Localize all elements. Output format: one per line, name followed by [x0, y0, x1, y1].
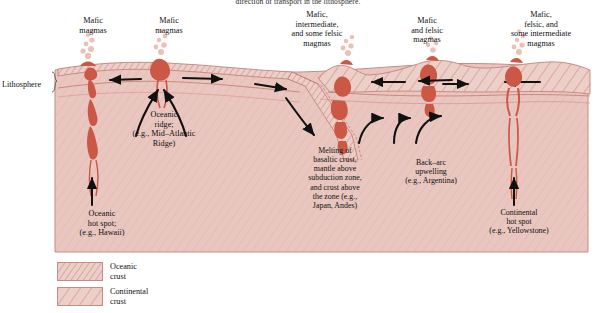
legend: Oceanic crust Continental crust [57, 262, 148, 313]
legend-label-oceanic-crust: Oceanic crust [110, 262, 137, 281]
legend-label-continental-crust: Continental crust [110, 287, 148, 306]
label-mafic-magmas-left: Mafic magmas [58, 16, 128, 35]
arrow-left-oceanic [110, 79, 141, 80]
lithosphere-label: Lithosphere [2, 80, 41, 89]
legend-item-continental-crust: Continental crust [57, 287, 148, 306]
arrow-right-oceanic [183, 78, 222, 79]
label-mafic-felsic: Mafic and felsic magmas [392, 16, 462, 45]
legend-swatch-continental-crust [57, 287, 103, 306]
legend-item-oceanic-crust: Oceanic crust [57, 262, 148, 281]
label-oceanic-hot-spot: Oceanic hot spot; (e.g., Hawaii) [60, 209, 144, 238]
label-oceanic-ridge: Oceanic ridge; (e.g., Mid–Atlantic Ridge… [112, 110, 216, 148]
legend-swatch-oceanic-crust [57, 262, 103, 281]
label-mafic-felsic-intermediate: Mafic, felsic, and some intermediate mag… [488, 10, 594, 48]
label-mafic-magmas-ridge: Mafic magmas [134, 16, 204, 35]
label-back-arc-upwelling: Back–arc upwelling (e.g., Argentina) [385, 158, 477, 185]
label-melting-subduction: Melting of basaltic crust, mantle above … [291, 146, 379, 210]
figure-stage: direction of transport in the lithospher… [0, 0, 596, 313]
label-continental-hot-spot: Continental hot spot (e.g., Yellowstone) [460, 208, 578, 235]
label-mafic-intermediate-felsic: Mafic, intermediate, and some felsic mag… [272, 10, 362, 48]
